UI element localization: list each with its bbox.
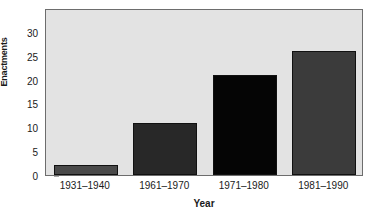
x-tick-label: 1981–1990 xyxy=(298,180,348,191)
y-tick-label: 15 xyxy=(14,99,38,110)
y-tick-label: 10 xyxy=(14,123,38,134)
bar xyxy=(54,165,118,175)
x-tick-label: 1961–1970 xyxy=(139,180,189,191)
y-axis-title: Enactments xyxy=(0,32,10,92)
plot-area xyxy=(45,9,363,176)
bar xyxy=(133,123,197,175)
y-tick-label: 25 xyxy=(14,51,38,62)
bar-chart: Enactments 051015202530 1931–19401961–19… xyxy=(0,0,370,218)
y-tick-label: 5 xyxy=(14,147,38,158)
y-tick-label: 30 xyxy=(14,27,38,38)
x-tick-label: 1971–1980 xyxy=(219,180,269,191)
y-tick-label: 0 xyxy=(14,171,38,182)
bar xyxy=(292,51,356,175)
x-axis-tick-labels: 1931–19401961–19701971–19801981–1990 xyxy=(45,180,363,194)
x-axis-title: Year xyxy=(45,198,363,209)
y-axis-tick-labels: 051015202530 xyxy=(14,9,38,176)
bars-container xyxy=(46,10,362,175)
y-tick-label: 20 xyxy=(14,75,38,86)
bar xyxy=(213,75,277,175)
x-tick-label: 1931–1940 xyxy=(60,180,110,191)
